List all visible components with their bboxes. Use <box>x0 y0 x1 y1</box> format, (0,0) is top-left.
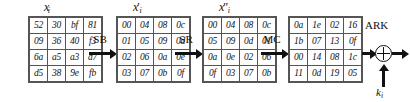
state-label-after-subbytes: x′i <box>133 0 142 15</box>
cell: 11 <box>290 66 308 82</box>
arrow-to-addroundkey <box>362 52 371 55</box>
cell: 19 <box>326 66 344 82</box>
cell: 52 <box>30 18 48 34</box>
cell: 09 <box>222 34 240 50</box>
cell: 03 <box>222 66 240 82</box>
table-row: 00 14 08 1c <box>290 50 362 66</box>
operation-label-shiftrows: SR <box>174 33 198 45</box>
cell: 00 <box>290 50 308 66</box>
cell: 08 <box>240 18 258 34</box>
cell: fb <box>84 66 102 82</box>
table-row: 11 0d 19 05 <box>290 66 362 82</box>
state-label-after-subbytes-sub: i <box>139 6 141 15</box>
round-key-sub: i <box>381 91 383 100</box>
cell: 0e <box>222 50 240 66</box>
cell: 02 <box>118 50 136 66</box>
arrow-subbytes <box>89 52 111 55</box>
state-label-after-shiftrows: x″i <box>219 0 230 15</box>
cell: 1b <box>290 34 308 50</box>
cell: 38 <box>48 66 66 82</box>
cell: 16 <box>344 18 362 34</box>
cell: 0a <box>204 50 222 66</box>
cell: 05 <box>136 34 154 50</box>
cell: 04 <box>136 18 154 34</box>
cell: a5 <box>48 50 66 66</box>
cell: 0c <box>172 18 190 34</box>
cell: d5 <box>30 66 48 82</box>
cell: 05 <box>344 66 362 82</box>
cell: 00 <box>204 18 222 34</box>
state-label-input-sub: i <box>48 6 50 15</box>
cell: 14 <box>308 50 326 66</box>
cell: 30 <box>48 18 66 34</box>
cell: 13 <box>326 34 344 50</box>
cell: 9e <box>66 66 84 82</box>
cell: 02 <box>240 50 258 66</box>
xor-icon <box>375 45 392 62</box>
table-row: d5 38 9e fb <box>30 66 102 82</box>
cell: 06 <box>136 50 154 66</box>
cell: 40 <box>66 34 84 50</box>
cell: 0f <box>172 66 190 82</box>
cell: 02 <box>326 18 344 34</box>
cell: 04 <box>222 18 240 34</box>
cell: 0a <box>154 50 172 66</box>
table-row: 00 04 08 0c <box>118 18 190 34</box>
cell: 0d <box>240 34 258 50</box>
cell: bf <box>66 18 84 34</box>
xor-vertical-bar <box>383 47 385 60</box>
cell: 0f <box>204 66 222 82</box>
operation-label-addroundkey: ARK <box>365 19 405 31</box>
aes-round-diagram: xi 52 30 bf 81 09 36 40 f3 6a a5 a3 d7 d… <box>0 0 410 102</box>
cell: 09 <box>30 34 48 50</box>
cell: 03 <box>118 66 136 82</box>
cell: 05 <box>204 34 222 50</box>
operation-label-subbytes: SB <box>88 33 112 45</box>
state-matrix-after-subbytes: 00 04 08 0c 01 05 09 0d 02 06 0a 0e 03 0… <box>117 17 190 82</box>
state-matrix-after-mixcolumns: 0a 1e 02 16 1b 07 13 0f 00 14 08 1c 11 0… <box>289 17 362 82</box>
state-matrix-input: 52 30 bf 81 09 36 40 f3 6a a5 a3 d7 d5 3… <box>29 17 102 82</box>
cell: 07 <box>136 66 154 82</box>
cell: 36 <box>48 34 66 50</box>
cell: a3 <box>66 50 84 66</box>
table-row: 1b 07 13 0f <box>290 34 362 50</box>
cell: 0c <box>258 18 276 34</box>
cell: 0f <box>344 34 362 50</box>
arrow-mixcolumns <box>261 52 283 55</box>
cell: 6a <box>30 50 48 66</box>
cell: 0a <box>290 18 308 34</box>
cell: 09 <box>154 34 172 50</box>
operation-label-mixcolumns: MC <box>259 33 285 45</box>
cell: 1c <box>344 50 362 66</box>
cell: 81 <box>84 18 102 34</box>
cell: 08 <box>326 50 344 66</box>
cell: 00 <box>118 18 136 34</box>
cell: 07 <box>308 34 326 50</box>
table-row: 52 30 bf 81 <box>30 18 102 34</box>
arrow-output <box>392 52 403 55</box>
table-row: 0a 1e 02 16 <box>290 18 362 34</box>
cell: 0b <box>154 66 172 82</box>
cell: 01 <box>118 34 136 50</box>
table-row: 00 04 08 0c <box>204 18 276 34</box>
arrow-shiftrows <box>175 52 197 55</box>
cell: 08 <box>154 18 172 34</box>
table-row: 0f 03 07 0b <box>204 66 276 82</box>
table-row: 03 07 0b 0f <box>118 66 190 82</box>
cell: 0d <box>308 66 326 82</box>
round-key-label: ki <box>376 86 383 100</box>
state-label-after-shiftrows-sub: i <box>228 6 230 15</box>
state-label-input: xi <box>44 0 50 15</box>
cell: 0b <box>258 66 276 82</box>
arrow-round-key <box>382 70 385 87</box>
cell: 07 <box>240 66 258 82</box>
cell: 1e <box>308 18 326 34</box>
state-matrix-after-shiftrows: 00 04 08 0c 05 09 0d 01 0a 0e 02 06 0f 0… <box>203 17 276 82</box>
